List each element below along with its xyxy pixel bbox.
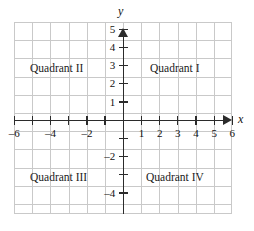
quadrant-1-label: Quadrant I — [150, 62, 200, 74]
y-tick — [119, 101, 128, 102]
y-tick — [119, 29, 128, 30]
quadrant-3-label: Quadrant III — [30, 171, 87, 183]
x-tick — [68, 116, 69, 125]
x-tick — [14, 116, 15, 125]
x-tick — [141, 116, 142, 125]
y-tick — [119, 47, 128, 48]
coordinate-plane-figure: x y –6–4–212345654321–2–4 Quadrant II Qu… — [0, 0, 254, 231]
y-tick-label: 5 — [93, 24, 115, 35]
y-tick-label: –2 — [93, 151, 115, 162]
x-tick — [159, 116, 160, 125]
x-tick — [50, 116, 51, 125]
y-tick — [119, 156, 128, 157]
x-tick — [177, 116, 178, 125]
x-axis-label: x — [238, 112, 243, 127]
y-tick — [119, 192, 128, 193]
y-tick-label: 2 — [93, 78, 115, 89]
y-tick — [119, 138, 128, 139]
x-tick-label: 6 — [221, 128, 243, 139]
y-tick-label: 1 — [93, 97, 115, 108]
x-tick — [195, 116, 196, 125]
x-axis-arrow-icon — [223, 115, 232, 125]
x-tick — [86, 116, 87, 125]
y-tick — [119, 83, 128, 84]
quadrant-2-label: Quadrant II — [30, 62, 83, 74]
quadrant-4-label: Quadrant IV — [146, 171, 204, 183]
x-tick — [32, 116, 33, 125]
y-tick-label: 4 — [93, 42, 115, 53]
y-tick — [119, 174, 128, 175]
y-axis-line — [123, 30, 124, 214]
x-tick — [232, 116, 233, 125]
x-tick-label: –4 — [40, 128, 62, 139]
x-tick-label: –2 — [76, 128, 98, 139]
y-tick-label: 3 — [93, 60, 115, 71]
x-tick — [104, 116, 105, 125]
x-axis-line — [14, 120, 226, 121]
y-axis-label: y — [118, 4, 123, 19]
y-tick-label: –4 — [93, 188, 115, 199]
x-tick-label: –6 — [3, 128, 25, 139]
y-tick — [119, 65, 128, 66]
x-tick — [214, 116, 215, 125]
